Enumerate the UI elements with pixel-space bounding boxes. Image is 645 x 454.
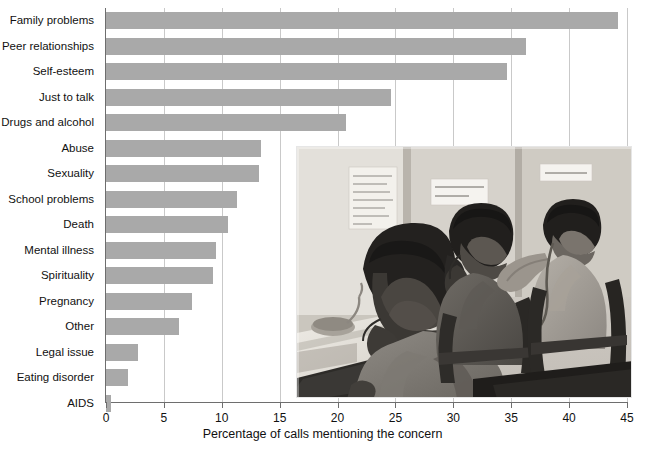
bar: [106, 89, 391, 106]
category-label: Spirituality: [0, 267, 100, 293]
x-axis-tick: [222, 402, 223, 408]
category-label: Eating disorder: [0, 369, 100, 395]
x-axis-tick-label: 5: [161, 411, 168, 425]
category-label: AIDS: [0, 395, 100, 421]
x-axis-tick-label: 40: [562, 411, 575, 425]
crisis-line-photograph: [296, 146, 632, 398]
x-axis-tick-label: 20: [331, 411, 344, 425]
x-axis-title: Percentage of calls mentioning the conce…: [0, 427, 645, 441]
bar: [106, 344, 138, 361]
x-axis-tick-label: 25: [389, 411, 402, 425]
x-axis-tick-label: 10: [215, 411, 228, 425]
bar: [106, 63, 507, 80]
x-axis-tick: [395, 402, 396, 408]
x-axis-tick: [106, 402, 107, 408]
x-axis-tick-label: 0: [103, 411, 110, 425]
bar: [106, 293, 192, 310]
category-axis-labels: Family problemsPeer relationshipsSelf-es…: [0, 12, 100, 420]
x-axis-tick: [627, 402, 628, 408]
category-label: Peer relationships: [0, 38, 100, 64]
category-label: Sexuality: [0, 165, 100, 191]
bar: [106, 267, 213, 284]
category-label: Pregnancy: [0, 293, 100, 319]
bar: [106, 165, 259, 182]
x-axis-tick: [511, 402, 512, 408]
category-label: Death: [0, 216, 100, 242]
x-axis-tick-label: 45: [620, 411, 633, 425]
bar: [106, 216, 228, 233]
x-axis-tick-label: 15: [273, 411, 286, 425]
category-label: Just to talk: [0, 89, 100, 115]
category-label: Mental illness: [0, 242, 100, 268]
photo-image: [297, 147, 632, 398]
x-axis-tick: [338, 402, 339, 408]
bar: [106, 318, 179, 335]
bar: [106, 140, 261, 157]
x-axis-tick-label: 30: [447, 411, 460, 425]
category-label: Other: [0, 318, 100, 344]
x-axis-line: [105, 402, 627, 403]
bar: [106, 12, 618, 29]
x-axis-tick: [280, 402, 281, 408]
x-axis-tick-label: 35: [505, 411, 518, 425]
category-label: Drugs and alcohol: [0, 114, 100, 140]
category-label: Self-esteem: [0, 63, 100, 89]
x-axis-tick: [569, 402, 570, 408]
category-label: Legal issue: [0, 344, 100, 370]
bar: [106, 242, 216, 259]
category-label: Abuse: [0, 140, 100, 166]
x-axis-tick: [453, 402, 454, 408]
bar-chart: Family problemsPeer relationshipsSelf-es…: [0, 0, 645, 454]
bar: [106, 114, 346, 131]
x-axis-tick: [164, 402, 165, 408]
category-label: School problems: [0, 191, 100, 217]
bar: [106, 38, 526, 55]
bar: [106, 191, 237, 208]
bar: [106, 369, 128, 386]
category-label: Family problems: [0, 12, 100, 38]
